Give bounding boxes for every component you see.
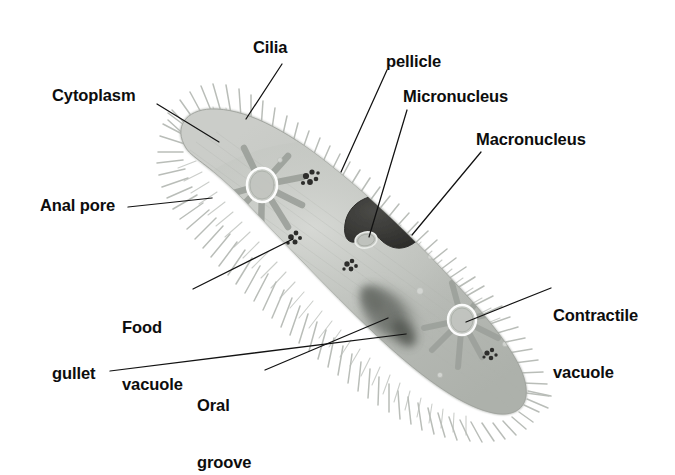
leader-food-vacuole — [193, 239, 293, 289]
label-anal-pore: Anal pore — [40, 196, 115, 214]
label-contractile-line2: vacuole — [553, 363, 638, 382]
label-oral-groove-line1: Oral — [197, 396, 251, 415]
leader-cilia — [246, 64, 282, 119]
label-macronucleus: Macronucleus — [476, 130, 586, 148]
label-cilia: Cilia — [253, 38, 287, 56]
leader-pellicle — [341, 70, 387, 172]
label-oral-groove: Oral groove — [197, 358, 251, 475]
label-contractile-vacuole: Contractile vacuole — [553, 268, 638, 420]
label-micronucleus: Micronucleus — [403, 87, 508, 105]
label-gullet: gullet — [52, 364, 95, 382]
label-contractile-line1: Contractile — [553, 306, 638, 325]
label-oral-groove-line2: groove — [197, 453, 251, 472]
label-pellicle: pellicle — [386, 52, 441, 70]
label-food-vacuole-line1: Food — [122, 318, 183, 337]
label-food-vacuole-line2: vacuole — [122, 375, 183, 394]
label-cytoplasm: Cytoplasm — [52, 86, 135, 104]
label-food-vacuole: Food vacuole — [122, 280, 183, 432]
leader-macronucleus — [412, 152, 481, 235]
leader-oral-groove — [265, 318, 388, 370]
